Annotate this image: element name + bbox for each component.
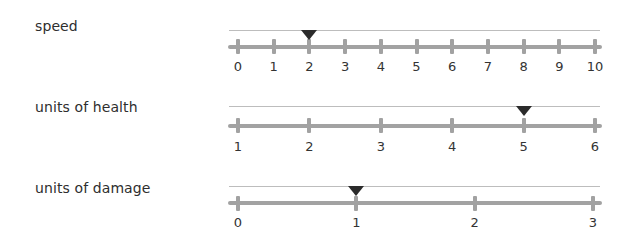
tick-mark bbox=[379, 118, 383, 133]
slider-handle-triangle-icon[interactable] bbox=[348, 186, 364, 196]
tick-label: 1 bbox=[223, 139, 253, 154]
tick-label: 1 bbox=[259, 59, 289, 74]
tick-label: 4 bbox=[437, 139, 467, 154]
tick-mark bbox=[450, 118, 454, 133]
tick-mark bbox=[236, 39, 240, 54]
tick-mark bbox=[522, 39, 526, 54]
slider-track-guide bbox=[229, 30, 600, 31]
tick-mark bbox=[354, 196, 358, 211]
tick-label: 3 bbox=[330, 59, 360, 74]
tick-mark bbox=[486, 39, 490, 54]
slider-track-guide bbox=[229, 186, 600, 187]
tick-mark bbox=[415, 39, 419, 54]
tick-mark bbox=[307, 39, 311, 54]
slider-axis[interactable] bbox=[228, 124, 602, 128]
tick-label: 1 bbox=[341, 215, 371, 230]
tick-mark bbox=[593, 39, 597, 54]
tick-label: 8 bbox=[509, 59, 539, 74]
tick-label: 6 bbox=[580, 139, 610, 154]
tick-label: 0 bbox=[223, 59, 253, 74]
slider-track-guide bbox=[229, 106, 600, 107]
tick-label: 2 bbox=[294, 139, 324, 154]
tick-mark bbox=[522, 118, 526, 133]
tick-mark bbox=[473, 196, 477, 211]
tick-mark bbox=[591, 196, 595, 211]
tick-label: 10 bbox=[580, 59, 610, 74]
tick-label: 5 bbox=[509, 139, 539, 154]
tick-mark bbox=[272, 39, 276, 54]
tick-mark bbox=[236, 118, 240, 133]
tick-label: 3 bbox=[578, 215, 608, 230]
slider-handle-triangle-icon[interactable] bbox=[516, 106, 532, 116]
tick-mark bbox=[343, 39, 347, 54]
tick-label: 2 bbox=[460, 215, 490, 230]
slider-label-damage: units of damage bbox=[35, 180, 151, 196]
slider-label-speed: speed bbox=[35, 18, 78, 34]
tick-mark bbox=[593, 118, 597, 133]
tick-mark bbox=[236, 196, 240, 211]
tick-label: 5 bbox=[402, 59, 432, 74]
tick-mark bbox=[557, 39, 561, 54]
slider-axis[interactable] bbox=[228, 201, 602, 205]
tick-mark bbox=[450, 39, 454, 54]
tick-label: 4 bbox=[366, 59, 396, 74]
slider-label-health: units of health bbox=[35, 99, 138, 115]
tick-label: 7 bbox=[473, 59, 503, 74]
tick-label: 9 bbox=[544, 59, 574, 74]
tick-label: 2 bbox=[294, 59, 324, 74]
tick-label: 6 bbox=[437, 59, 467, 74]
tick-mark bbox=[379, 39, 383, 54]
tick-mark bbox=[307, 118, 311, 133]
tick-label: 0 bbox=[223, 215, 253, 230]
slider-handle-triangle-icon[interactable] bbox=[301, 30, 317, 40]
tick-label: 3 bbox=[366, 139, 396, 154]
